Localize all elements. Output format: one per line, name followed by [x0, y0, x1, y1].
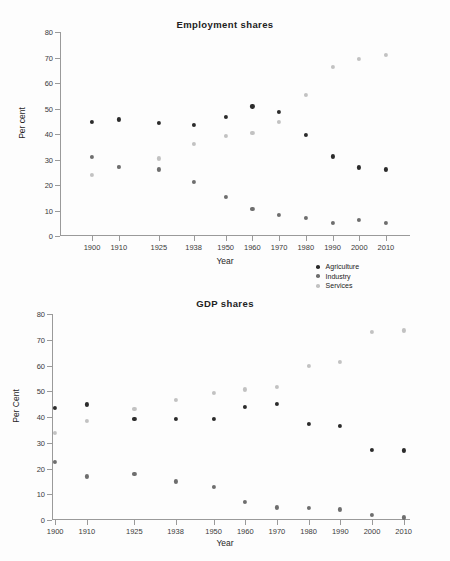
data-point-employment-agriculture-2000 — [357, 165, 361, 169]
data-point-gdp-industry-1910 — [85, 474, 89, 478]
x-tick-gdp-1980 — [309, 520, 310, 525]
x-tick-gdp-2000 — [372, 520, 373, 525]
x-tick-label-gdp-1980: 1980 — [300, 527, 317, 536]
data-point-employment-industry-1990 — [330, 221, 334, 225]
x-tick-label-employment-1950: 1950 — [217, 243, 234, 252]
data-point-employment-services-1990 — [330, 65, 334, 69]
data-point-employment-industry-2010 — [384, 221, 388, 225]
x-tick-employment-1900 — [92, 236, 93, 241]
y-tick-gdp-60 — [47, 366, 52, 367]
x-tick-label-gdp-2000: 2000 — [364, 527, 381, 536]
data-point-gdp-services-1990 — [338, 360, 342, 364]
y-axis-title-gdp: Per Cent — [11, 376, 21, 436]
y-tick-label-employment-60: 60 — [45, 79, 53, 88]
y-tick-gdp-50 — [47, 391, 52, 392]
x-tick-employment-1910 — [119, 236, 120, 241]
data-point-employment-agriculture-1960 — [250, 104, 254, 108]
legend-item-agriculture: Agriculture — [316, 262, 359, 272]
y-tick-label-gdp-50: 50 — [37, 387, 45, 396]
x-tick-employment-1950 — [226, 236, 227, 241]
y-axis-line-employment — [60, 32, 61, 236]
x-tick-employment-1960 — [252, 236, 253, 241]
data-point-employment-industry-1938 — [191, 180, 195, 184]
y-tick-label-employment-50: 50 — [45, 104, 53, 113]
y-tick-gdp-0 — [47, 520, 52, 521]
data-point-gdp-agriculture-1938 — [173, 416, 177, 420]
legend-item-industry: Industry — [316, 272, 359, 282]
x-tick-gdp-1910 — [87, 520, 88, 525]
legend-label-industry: Industry — [326, 272, 351, 282]
data-point-gdp-industry-1990 — [338, 507, 342, 511]
y-tick-employment-50 — [55, 109, 60, 110]
y-tick-employment-20 — [55, 185, 60, 186]
data-point-gdp-services-1960 — [243, 387, 247, 391]
y-tick-employment-0 — [55, 236, 60, 237]
data-point-employment-services-1950 — [224, 133, 228, 137]
data-point-employment-industry-1970 — [277, 212, 281, 216]
x-tick-label-employment-1980: 1980 — [297, 243, 314, 252]
data-point-employment-industry-1910 — [117, 165, 121, 169]
x-tick-label-gdp-1990: 1990 — [332, 527, 349, 536]
x-tick-label-gdp-2010: 2010 — [395, 527, 412, 536]
data-point-gdp-agriculture-1960 — [243, 405, 247, 409]
data-point-gdp-agriculture-2000 — [370, 448, 374, 452]
y-tick-label-gdp-10: 10 — [37, 490, 45, 499]
y-tick-gdp-40 — [47, 417, 52, 418]
data-point-gdp-industry-1925 — [132, 472, 136, 476]
data-point-gdp-services-1950 — [211, 391, 215, 395]
x-tick-gdp-1925 — [134, 520, 135, 525]
legend-dot-icon-industry — [316, 274, 320, 278]
x-tick-label-gdp-1970: 1970 — [269, 527, 286, 536]
y-tick-label-employment-0: 0 — [49, 232, 53, 241]
plot-area-gdp: 0102030405060708019001910192519381950196… — [52, 314, 410, 520]
x-tick-label-gdp-1938: 1938 — [167, 527, 184, 536]
x-tick-gdp-1970 — [277, 520, 278, 525]
x-tick-employment-2010 — [386, 236, 387, 241]
x-tick-label-employment-1960: 1960 — [244, 243, 261, 252]
data-point-employment-industry-1980 — [304, 216, 308, 220]
panel-employment-shares: Employment shares 0102030405060708019001… — [0, 0, 450, 290]
x-tick-label-employment-1910: 1910 — [110, 243, 127, 252]
data-point-gdp-agriculture-1980 — [307, 422, 311, 426]
x-tick-label-employment-2000: 2000 — [351, 243, 368, 252]
y-tick-employment-70 — [55, 58, 60, 59]
y-tick-employment-60 — [55, 83, 60, 84]
y-tick-gdp-30 — [47, 443, 52, 444]
y-tick-label-employment-10: 10 — [45, 206, 53, 215]
data-point-gdp-agriculture-1900 — [53, 406, 57, 410]
data-point-gdp-agriculture-1950 — [211, 416, 215, 420]
data-point-gdp-industry-1970 — [275, 505, 279, 509]
data-point-employment-industry-1950 — [224, 195, 228, 199]
y-tick-label-gdp-30: 30 — [37, 438, 45, 447]
x-tick-label-employment-1970: 1970 — [271, 243, 288, 252]
data-point-employment-industry-1960 — [250, 207, 254, 211]
y-tick-label-gdp-0: 0 — [41, 516, 45, 525]
x-tick-employment-1925 — [159, 236, 160, 241]
x-tick-gdp-1960 — [245, 520, 246, 525]
data-point-gdp-industry-1980 — [307, 506, 311, 510]
legend-label-agriculture: Agriculture — [326, 262, 359, 272]
figure-root: Employment shares 0102030405060708019001… — [0, 0, 450, 561]
data-point-employment-agriculture-1938 — [191, 123, 195, 127]
data-point-gdp-industry-1960 — [243, 500, 247, 504]
x-tick-employment-1990 — [333, 236, 334, 241]
data-point-gdp-services-1900 — [53, 431, 57, 435]
x-tick-label-gdp-1925: 1925 — [126, 527, 143, 536]
y-tick-label-employment-80: 80 — [45, 28, 53, 37]
x-axis-title-gdp: Year — [0, 538, 450, 548]
y-tick-label-employment-20: 20 — [45, 181, 53, 190]
y-axis-title-employment: Per cent — [17, 93, 27, 153]
y-tick-gdp-80 — [47, 314, 52, 315]
data-point-employment-industry-1900 — [90, 155, 94, 159]
x-tick-label-gdp-1950: 1950 — [205, 527, 222, 536]
y-tick-employment-40 — [55, 134, 60, 135]
data-point-gdp-services-1970 — [275, 385, 279, 389]
data-point-gdp-services-1980 — [307, 364, 311, 368]
y-tick-employment-10 — [55, 211, 60, 212]
data-point-gdp-services-1938 — [173, 398, 177, 402]
data-point-gdp-agriculture-1925 — [132, 416, 136, 420]
data-point-gdp-services-1925 — [132, 407, 136, 411]
data-point-employment-industry-2000 — [357, 218, 361, 222]
data-point-employment-agriculture-1910 — [117, 117, 121, 121]
x-tick-employment-1980 — [306, 236, 307, 241]
